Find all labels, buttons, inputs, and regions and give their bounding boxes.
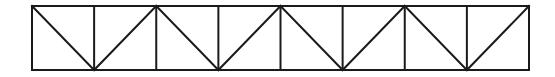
truss-svg bbox=[0, 0, 555, 77]
diagonal-member bbox=[32, 6, 94, 70]
truss-diagram bbox=[0, 0, 555, 77]
diagonal-member bbox=[94, 6, 156, 70]
diagonal-member bbox=[156, 6, 218, 70]
diagonal-member bbox=[218, 6, 280, 70]
diagonal-member bbox=[343, 6, 405, 70]
truss-members bbox=[32, 6, 529, 70]
diagonal-member bbox=[405, 6, 467, 70]
diagonal-member bbox=[467, 6, 529, 70]
diagonal-member bbox=[281, 6, 343, 70]
